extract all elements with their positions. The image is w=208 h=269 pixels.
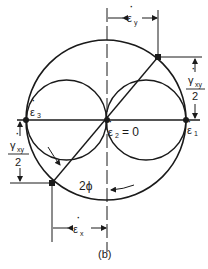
gamma-right-label: γ bbox=[188, 74, 194, 86]
eps-y-dot: · bbox=[130, 2, 133, 12]
gamma-left-dot: · bbox=[16, 129, 19, 139]
gamma-right-dot: · bbox=[192, 64, 195, 74]
gamma-right-denominator: 2 bbox=[192, 90, 198, 102]
eps2-subscript: 2 bbox=[115, 132, 119, 139]
eps2-label: ε bbox=[108, 126, 113, 138]
eps3-dot: · bbox=[32, 96, 35, 106]
point-x bbox=[49, 180, 55, 186]
eps1-label: ε bbox=[187, 124, 192, 136]
eps-y-label: ε bbox=[127, 12, 132, 24]
figure-caption: (b) bbox=[98, 248, 111, 260]
eps2-value: = 0 bbox=[122, 125, 139, 139]
point-eps3 bbox=[23, 117, 29, 123]
angle-arrow-right bbox=[111, 185, 134, 190]
eps3-subscript: 3 bbox=[37, 112, 41, 119]
point-y bbox=[155, 54, 161, 60]
eps-x-dot: · bbox=[77, 213, 80, 223]
mohr-circle-diagram: · ε y · ε x · γ xy 2 · γ xy 2 · ε 3 · ε … bbox=[0, 0, 208, 269]
gamma-left-denominator: 2 bbox=[15, 156, 21, 168]
eps-x-label: ε bbox=[73, 223, 78, 235]
eps-x-subscript: x bbox=[80, 230, 84, 237]
eps1-subscript: 1 bbox=[194, 130, 198, 137]
gamma-left-subscript: xy bbox=[17, 146, 25, 154]
eps-y-subscript: y bbox=[134, 19, 138, 27]
eps3-label: ε bbox=[30, 106, 35, 118]
angle-2phi-label: 2ϕ bbox=[79, 179, 93, 193]
gamma-right-subscript: xy bbox=[195, 81, 203, 89]
gamma-left-label: γ bbox=[10, 139, 16, 151]
